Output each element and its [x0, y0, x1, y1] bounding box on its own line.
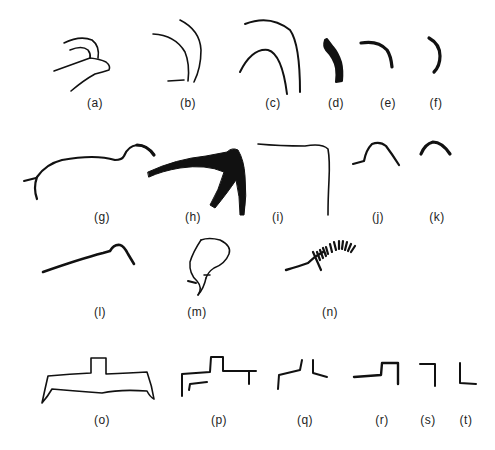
motif-d-drawing — [324, 39, 342, 82]
motif-i-drawing — [258, 144, 329, 215]
motif-h-drawing — [148, 149, 246, 215]
motif-figure: (a) (b) (c) (d) (e) (f) (g) (h) (i) (j) … — [0, 0, 495, 450]
motif-l-label: (l) — [94, 305, 106, 319]
motif-j-drawing — [353, 143, 399, 165]
motif-t-label: (t) — [460, 413, 473, 427]
motif-drawings — [0, 0, 495, 450]
motif-o-drawing — [42, 358, 154, 403]
motif-n-label: (n) — [322, 305, 338, 319]
motif-m-label: (m) — [187, 305, 207, 319]
motif-r-label: (r) — [375, 413, 389, 427]
motif-c-drawing — [240, 20, 300, 94]
motif-q-label: (q) — [297, 413, 313, 427]
motif-b-label: (b) — [180, 96, 196, 110]
motif-m-drawing — [188, 239, 230, 296]
motif-e-drawing — [361, 42, 392, 67]
motif-o-label: (o) — [94, 413, 110, 427]
motif-f-label: (f) — [430, 96, 443, 110]
motif-g-label: (g) — [94, 210, 110, 224]
motif-k-label: (k) — [429, 210, 445, 224]
motif-a-label: (a) — [87, 96, 103, 110]
motif-c-label: (c) — [265, 96, 281, 110]
motif-r-drawing — [354, 363, 398, 384]
motif-a-drawing — [54, 38, 110, 91]
motif-n-drawing — [286, 241, 355, 270]
motif-d-label: (d) — [328, 96, 344, 110]
motif-p-drawing — [182, 357, 256, 396]
motif-q-drawing — [278, 360, 327, 389]
motif-f-drawing — [429, 38, 440, 72]
motif-l-drawing — [43, 245, 134, 272]
motif-g-drawing — [24, 145, 154, 199]
motif-s-drawing — [420, 364, 435, 386]
motif-b-drawing — [153, 20, 201, 82]
motif-t-drawing — [460, 363, 476, 384]
motif-p-label: (p) — [211, 413, 227, 427]
motif-k-drawing — [421, 142, 450, 154]
motif-i-label: (i) — [272, 210, 284, 224]
motif-e-label: (e) — [380, 96, 396, 110]
motif-h-label: (h) — [185, 210, 201, 224]
motif-j-label: (j) — [372, 210, 384, 224]
motif-s-label: (s) — [420, 413, 436, 427]
